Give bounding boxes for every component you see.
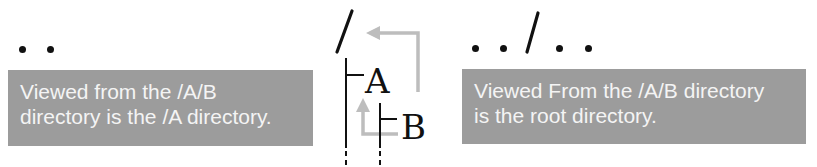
right-caption-box: Viewed From the /A/B directory is the ro… — [462, 69, 806, 144]
dot — [585, 45, 592, 52]
right-caption-line-2: is the root directory. — [474, 103, 796, 128]
dot — [556, 45, 563, 52]
right-caption-line-1: Viewed From the /A/B directory — [474, 78, 796, 103]
